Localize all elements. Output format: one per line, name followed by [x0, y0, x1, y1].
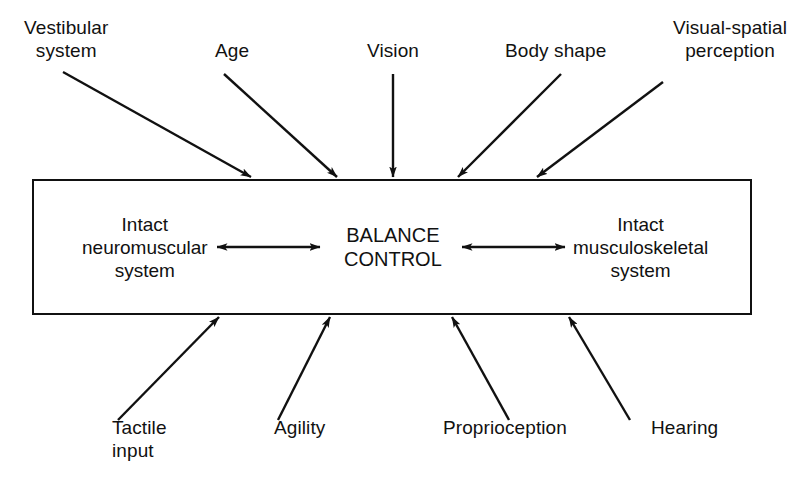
arrow-proprioception: [452, 317, 509, 420]
label-tactile-input: Tactile input: [112, 416, 167, 462]
label-visual-spatial-perception: Visual-spatial perception: [673, 16, 787, 62]
top-input-arrows: [63, 72, 663, 177]
arrow-visual-spatial-perception: [537, 82, 663, 177]
label-agility: Agility: [274, 416, 325, 439]
label-vision: Vision: [367, 39, 419, 62]
balance-control-diagram: Vestibular system Age Vision Body shape …: [0, 0, 810, 490]
label-proprioception: Proprioception: [443, 416, 567, 439]
label-vestibular-system: Vestibular system: [24, 16, 108, 62]
arrow-body-shape: [458, 74, 561, 177]
arrow-tactile-input: [118, 317, 219, 420]
label-balance-control: BALANCE CONTROL: [344, 223, 442, 271]
label-intact-neuromuscular-system: Intact neuromuscular system: [82, 213, 208, 282]
bottom-input-arrows: [118, 317, 630, 420]
label-age: Age: [215, 39, 249, 62]
label-hearing: Hearing: [651, 416, 718, 439]
arrow-vestibular-system: [63, 72, 251, 177]
label-intact-musculoskeletal-system: Intact musculoskeletal system: [573, 213, 708, 282]
arrow-agility: [278, 317, 330, 420]
label-body-shape: Body shape: [505, 39, 606, 62]
arrow-age: [224, 74, 337, 177]
arrow-hearing: [569, 317, 630, 420]
